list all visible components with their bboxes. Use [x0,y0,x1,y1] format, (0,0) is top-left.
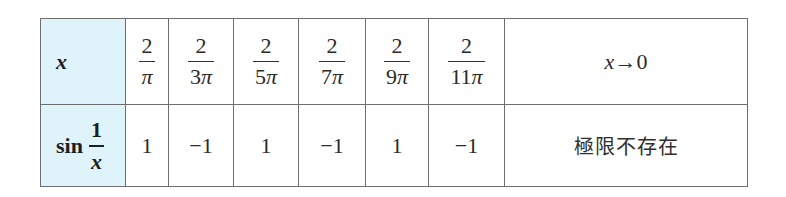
x-variable-label: x [56,49,67,74]
sin-value-cell: −1 [429,105,505,187]
x-value-cell: 2 7π [299,19,366,105]
sin-value-cell: 1 [234,105,299,187]
sin-value-cell: −1 [299,105,366,187]
x-value-cell: 2 5π [234,19,299,105]
limit-does-not-exist-text: 極限不存在 [574,135,679,159]
x-row-header: x [41,19,126,105]
sin-values-row: sin 1 x 1 −1 1 −1 1 −1 極限不存在 [41,105,748,187]
x-values-row: x 2 π 2 3π 2 5π 2 7π [41,19,748,105]
x-value-fraction: 2 5π [253,35,279,88]
limit-expression-cell: x→0 [505,19,748,105]
sin-value-cell: 1 [366,105,429,187]
x-value-cell: 2 11π [429,19,505,105]
x-value-cell: 2 π [126,19,169,105]
sin-one-over-x-limit-table: x 2 π 2 3π 2 5π 2 7π [40,18,748,187]
sin-value-cell: 1 [126,105,169,187]
x-value-fraction: 2 11π [448,35,484,88]
limit-result-cell: 極限不存在 [505,105,748,187]
x-value-fraction: 2 π [139,35,154,88]
one-over-x-fraction: 1 x [89,119,104,173]
x-value-cell: 2 9π [366,19,429,105]
limit-expression: x→0 [605,49,648,74]
x-value-cell: 2 3π [169,19,234,105]
sin-function-label: sin [56,133,83,158]
x-value-fraction: 2 7π [319,35,345,88]
x-value-fraction: 2 3π [188,35,214,88]
sin-value-cell: −1 [169,105,234,187]
x-value-fraction: 2 9π [384,35,410,88]
sin-row-header: sin 1 x [41,105,126,187]
